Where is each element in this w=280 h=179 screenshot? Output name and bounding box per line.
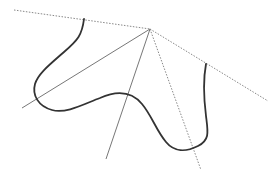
diagram-canvas	[0, 0, 280, 179]
background	[0, 0, 280, 179]
